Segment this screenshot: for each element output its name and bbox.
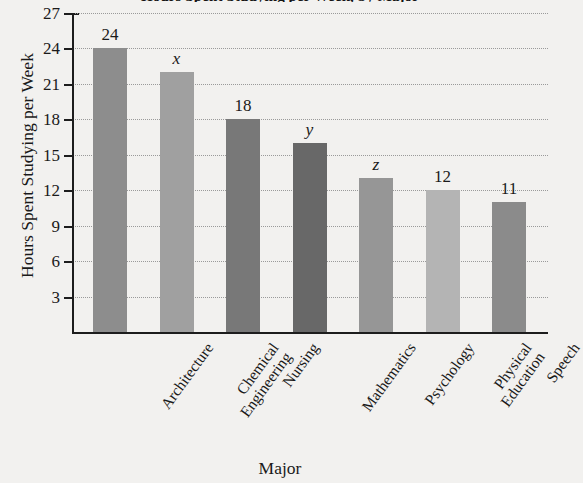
bar-value-label: y	[280, 121, 340, 139]
y-axis-tick	[64, 119, 74, 121]
y-axis-tick-label: 15	[24, 147, 60, 164]
y-axis-tick	[64, 226, 74, 228]
y-axis-tick-label: 6	[24, 253, 60, 270]
gridline	[72, 84, 548, 85]
x-axis-category-label: PhysicalEducation	[484, 340, 546, 409]
x-axis-category-label: Speech	[543, 340, 582, 386]
y-axis-tick-label: 21	[24, 76, 60, 93]
y-axis-tick-label: 3	[24, 289, 60, 306]
y-axis-tick	[64, 13, 74, 15]
x-axis-label-line: Psychology	[422, 340, 477, 408]
y-axis-tick-label: 18	[24, 111, 60, 128]
y-axis-tick-label: 9	[24, 218, 60, 235]
bar-value-label: 24	[80, 26, 140, 43]
y-axis-tick	[64, 84, 74, 86]
bar[interactable]	[93, 48, 127, 332]
x-axis-category-label: Mathematics	[359, 340, 419, 414]
plot-area: 369121518212427 24x18yz1211	[72, 13, 548, 332]
bar[interactable]	[226, 119, 260, 332]
y-axis-tick	[64, 261, 74, 263]
y-axis-tick	[64, 190, 74, 192]
y-axis-tick-label: 27	[24, 5, 60, 22]
bar-value-label: 18	[213, 97, 273, 114]
x-axis-line	[72, 332, 548, 334]
bar[interactable]	[426, 190, 460, 332]
bar-value-label: 12	[413, 168, 473, 185]
y-axis-tick	[64, 155, 74, 157]
bar[interactable]	[160, 72, 194, 332]
x-axis-category-label: Psychology	[422, 340, 477, 408]
x-axis-label-line: Mathematics	[359, 340, 419, 414]
bar-value-label: x	[147, 50, 207, 68]
x-axis-category-label: Architecture	[158, 340, 216, 412]
bar[interactable]	[492, 202, 526, 332]
x-axis-title: Major	[0, 458, 560, 479]
gridline	[72, 48, 548, 49]
y-axis-tick-label: 12	[24, 182, 60, 199]
y-axis-tick	[64, 48, 74, 50]
bar-value-label: 11	[479, 180, 539, 197]
y-axis-title: Hours Spent Studying per Week	[17, 16, 38, 316]
bar-value-label: z	[346, 156, 406, 174]
y-axis-line	[72, 13, 74, 332]
gridline	[72, 13, 548, 14]
y-axis-tick	[64, 297, 74, 299]
y-axis-tick-label: 24	[24, 40, 60, 57]
x-axis-label-line: Speech	[543, 340, 582, 386]
bar[interactable]	[293, 143, 327, 332]
x-axis-label-line: Architecture	[158, 340, 216, 412]
chart-title: Hours Spent Studying per Week, by Major	[0, 0, 560, 2]
bar[interactable]	[359, 178, 393, 332]
